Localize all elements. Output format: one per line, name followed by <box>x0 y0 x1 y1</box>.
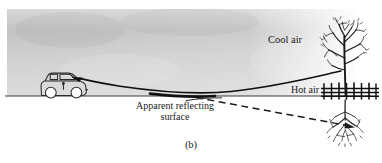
label-apparent-reflecting-surface: Apparent reflecting surface <box>128 101 222 122</box>
label-cool-air: Cool air <box>268 34 302 45</box>
label-hot-air: Hot air <box>291 85 319 96</box>
sky-region <box>7 8 354 96</box>
mirage-figure: Cool air Hot air Apparent reflecting sur… <box>0 0 382 163</box>
figure-panel-letter: (b) <box>0 139 382 150</box>
